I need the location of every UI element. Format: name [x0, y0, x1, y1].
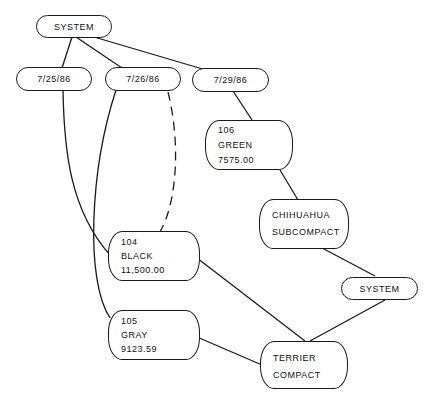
node-label: 7/29/86	[214, 75, 248, 85]
node-date-7-29-86: 7/29/86	[192, 68, 269, 92]
node-model: TERRIER	[273, 350, 347, 367]
node-price: 7575.00	[218, 153, 292, 168]
node-id: 104	[121, 235, 199, 249]
edge-105-to-terrier	[197, 337, 262, 365]
edge-7-26-to-105	[94, 90, 116, 318]
node-price: 9123.59	[121, 342, 199, 356]
node-system-top: SYSTEM	[36, 15, 112, 38]
node-label: SYSTEM	[54, 22, 94, 32]
node-class: SUBCOMPACT	[272, 224, 348, 241]
node-label: 7/26/86	[126, 74, 160, 84]
node-color: BLACK	[121, 249, 199, 263]
node-id: 105	[121, 314, 199, 328]
node-105-gray: 105 GRAY 9123.59	[108, 310, 200, 360]
node-104-black: 104 BLACK 11,500.00	[108, 231, 200, 281]
edge-system-to-terrier	[310, 300, 385, 341]
node-price: 11,500.00	[121, 263, 199, 277]
edge-system-to-7-26	[76, 37, 122, 68]
edge-system-to-7-25	[62, 37, 72, 68]
node-106-green: 106 GREEN 7575.00	[205, 120, 293, 170]
node-color: GRAY	[121, 328, 199, 342]
diagram-edges	[0, 0, 432, 405]
edge-chihuahua-to-system	[322, 248, 375, 276]
edge-104-to-terrier	[197, 258, 305, 341]
node-id: 106	[218, 123, 292, 138]
edge-106-to-chihuahua	[280, 170, 298, 200]
node-terrier-compact: TERRIER COMPACT	[260, 341, 348, 389]
node-date-7-26-86: 7/26/86	[105, 67, 181, 91]
edge-7-25-to-104	[63, 90, 110, 255]
node-date-7-25-86: 7/25/86	[16, 67, 92, 91]
node-model: CHIHUAHUA	[272, 207, 348, 224]
node-system-bottom: SYSTEM	[341, 277, 418, 300]
node-label: SYSTEM	[359, 284, 399, 294]
edge-7-26-to-104-dashed	[160, 92, 176, 232]
node-color: GREEN	[218, 138, 292, 153]
edge-7-29-to-106	[233, 91, 252, 120]
node-chihuahua-subcompact: CHIHUAHUA SUBCOMPACT	[259, 199, 349, 249]
node-class: COMPACT	[273, 367, 347, 384]
edge-system-to-7-29	[94, 37, 206, 70]
node-label: 7/25/86	[37, 74, 71, 84]
